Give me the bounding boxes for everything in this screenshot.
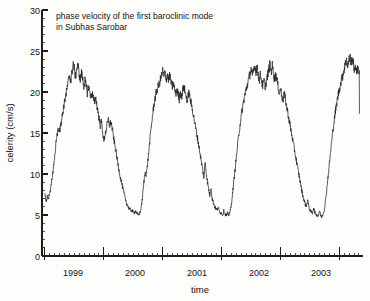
y-tick-label-10: 10 [30,170,40,180]
annotation-line-2: in Subhas Sarobar [56,22,127,32]
x-tick-labels: 1999 2000 2001 2002 2003 [63,268,331,278]
y-tick-label-0: 0 [35,252,40,262]
x-tick-label-2000: 2000 [125,268,145,278]
y-tick-label-20: 20 [30,88,40,98]
celerity-line [45,54,360,218]
celerity-time-series-plot: 30 25 20 15 10 5 0 1999 2000 2001 2002 2… [0,0,370,301]
y-tick-labels: 30 25 20 15 10 5 0 [30,6,40,262]
y-tick-label-15: 15 [30,129,40,139]
y-tick-label-25: 25 [30,47,40,57]
x-tick-label-2003: 2003 [311,268,331,278]
x-tick-label-2001: 2001 [187,268,207,278]
x-axis-ticks [45,247,359,260]
annotation-line-1: phase velocity of the first baroclinic m… [56,11,213,21]
x-tick-label-2002: 2002 [249,268,269,278]
y-tick-label-5: 5 [35,211,40,221]
data-series-group [45,54,360,218]
plot-annotation: phase velocity of the first baroclinic m… [56,11,213,32]
y-axis-title: celerity (cm/s) [4,103,15,162]
chart-figure: 30 25 20 15 10 5 0 1999 2000 2001 2002 2… [0,0,370,301]
x-tick-label-1999: 1999 [63,268,83,278]
axis-lines [42,10,363,256]
y-tick-label-30: 30 [30,6,40,16]
y-axis-ticks [42,10,48,256]
x-axis-title: time [191,284,209,295]
